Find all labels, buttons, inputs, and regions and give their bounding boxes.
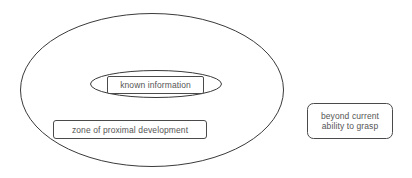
zone-of-proximal-development-label: zone of proximal development [53, 120, 207, 139]
known-information-label: known information [107, 76, 204, 94]
diagram-vector-layer [0, 0, 412, 178]
beyond-current-ability-label-line-2: ability to grasp [322, 121, 378, 131]
diagram-canvas: known information zone of proximal devel… [0, 0, 412, 178]
beyond-current-ability-label-line-1: beyond current [321, 111, 379, 121]
beyond-current-ability-label: beyond current ability to grasp [307, 103, 393, 139]
